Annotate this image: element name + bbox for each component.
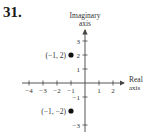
data-point: (−1, −2) xyxy=(41,107,73,116)
imaginary-axis-label-line2: axis xyxy=(79,19,91,28)
x-tick-label: 2 xyxy=(111,87,115,95)
y-tick-label: −1 xyxy=(73,94,81,102)
y-tick: 1 xyxy=(77,66,88,74)
y-tick: 2 xyxy=(77,52,88,60)
x-tick-label: −4 xyxy=(25,87,33,95)
point-label: (−1, 2) xyxy=(46,51,67,60)
imaginary-axis-label: Imaginary axis xyxy=(70,11,101,28)
x-tick-label: 1 xyxy=(97,87,101,95)
data-point: (−1, 2) xyxy=(46,51,74,60)
point-label: (−1, −2) xyxy=(41,107,66,116)
x-tick-label: −3 xyxy=(39,87,47,95)
y-tick-label: 1 xyxy=(77,66,81,74)
real-axis-label-line1: Real xyxy=(129,75,143,84)
y-tick-label: −3 xyxy=(73,122,81,130)
real-axis-label: Real axis xyxy=(129,75,143,92)
point-marker-icon xyxy=(68,52,73,57)
real-axis-label-line2: axis xyxy=(129,84,141,92)
y-tick-label: 2 xyxy=(77,52,81,60)
point-marker-icon xyxy=(68,108,73,113)
y-tick: 3 xyxy=(77,38,88,46)
complex-plane-chart: −4−3−2−112 321−1−3 Imaginary axis Real a… xyxy=(0,0,148,139)
y-tick-label: 3 xyxy=(77,38,81,46)
x-tick-label: −2 xyxy=(53,87,61,95)
